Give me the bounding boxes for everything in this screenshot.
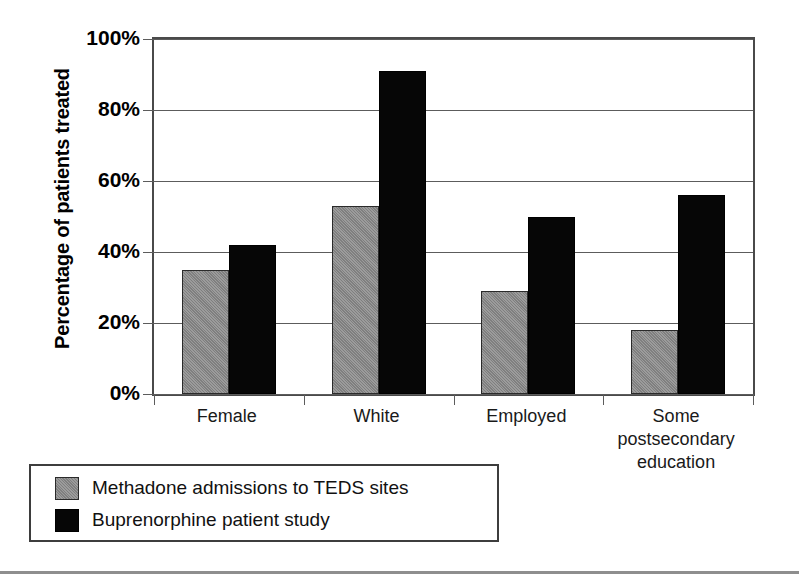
bar-white-buprenorphine xyxy=(379,71,426,394)
y-axis-tick-label: 20% xyxy=(50,310,140,334)
x-axis-category-label: White xyxy=(302,405,452,428)
gridline xyxy=(154,181,753,182)
black-swatch-icon xyxy=(55,509,79,532)
y-axis-tick xyxy=(143,39,154,40)
legend-item-label: Buprenorphine patient study xyxy=(92,509,330,531)
gridline xyxy=(154,110,753,111)
y-axis-tick-label: 40% xyxy=(50,239,140,263)
y-axis-tick-label: 100% xyxy=(50,26,140,50)
y-axis-tick-label: 60% xyxy=(50,168,140,192)
x-axis-tick xyxy=(154,394,155,405)
legend-item-label: Methadone admissions to TEDS sites xyxy=(92,477,408,499)
x-axis-tick xyxy=(603,394,604,405)
x-axis-category-label: Female xyxy=(152,405,302,428)
y-axis-tick-label: 0% xyxy=(50,381,140,405)
y-axis-tick xyxy=(143,252,154,253)
legend-item: Buprenorphine patient study xyxy=(55,504,497,536)
legend-item: Methadone admissions to TEDS sites xyxy=(55,472,497,504)
plot-area: 0%20%40%60%80%100% xyxy=(152,37,755,396)
y-axis-tick xyxy=(143,394,154,395)
bar-white-methadone xyxy=(332,206,379,394)
bar-some-postsecondary-education-buprenorphine xyxy=(678,195,725,394)
chart-legend: Methadone admissions to TEDS sites Bupre… xyxy=(29,464,499,542)
x-axis-tick xyxy=(304,394,305,405)
bar-female-methadone xyxy=(182,270,229,394)
bar-employed-methadone xyxy=(481,291,528,394)
x-axis-tick xyxy=(753,394,754,405)
bar-employed-buprenorphine xyxy=(528,217,575,395)
y-axis-tick xyxy=(143,323,154,324)
y-axis-tick xyxy=(143,110,154,111)
gridline xyxy=(154,39,753,40)
x-axis-tick xyxy=(454,394,455,405)
gray-swatch-icon xyxy=(55,477,79,500)
y-axis-tick-label: 80% xyxy=(50,97,140,121)
bar-female-buprenorphine xyxy=(229,245,276,394)
y-axis-tick xyxy=(143,181,154,182)
x-axis-category-label: Some postsecondary education xyxy=(601,405,751,474)
x-axis-category-label: Employed xyxy=(451,405,601,428)
bottom-divider xyxy=(0,571,799,574)
chart-figure: Percentage of patients treated 0%20%40%6… xyxy=(0,0,799,585)
bar-some-postsecondary-education-methadone xyxy=(631,330,678,394)
